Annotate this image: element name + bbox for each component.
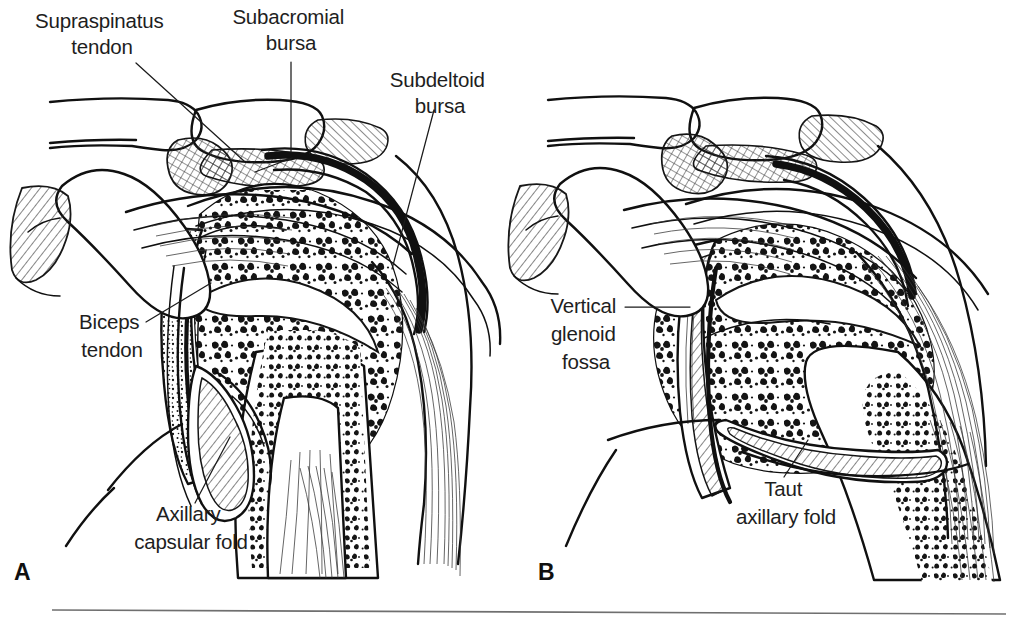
panel-letter-b: B bbox=[538, 559, 555, 585]
panel-letter-a: A bbox=[14, 559, 31, 585]
anatomy-figure: Supraspinatus tendon Subacromial bursa S… bbox=[0, 0, 1021, 626]
figure-canvas: Supraspinatus tendon Subacromial bursa S… bbox=[0, 0, 1021, 626]
